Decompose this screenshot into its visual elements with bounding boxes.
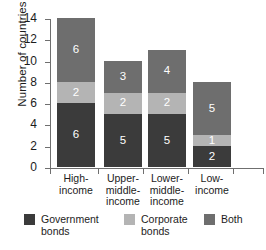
y-tick-label-4: 4 — [30, 118, 37, 131]
bar-segment-value: 5 — [209, 103, 215, 115]
bar-segment[interactable]: 2 — [193, 146, 231, 167]
y-tick-label-10: 10 — [24, 55, 37, 68]
y-tick-label-8: 8 — [30, 76, 37, 89]
y-tick-label-2: 2 — [30, 140, 37, 153]
bar-segment[interactable]: 4 — [148, 50, 186, 93]
chart-legend: Government bondsCorporate bondsBoth — [24, 213, 262, 243]
bar-1[interactable]: 626 — [57, 18, 95, 167]
y-tick-8: 8 — [45, 83, 50, 84]
y-tick-label-12: 12 — [24, 33, 37, 46]
bar-segment-value: 3 — [120, 71, 126, 83]
bar-segment[interactable]: 2 — [104, 93, 142, 114]
category-label-4: Low- income — [182, 173, 242, 196]
bar-segment[interactable]: 5 — [193, 82, 231, 135]
bar-segment[interactable]: 6 — [57, 18, 95, 82]
bar-segment[interactable]: 6 — [57, 103, 95, 167]
x-axis-line — [50, 168, 264, 169]
legend-item[interactable]: Corporate bonds — [124, 213, 188, 237]
legend-swatch-icon — [24, 214, 35, 225]
legend-item[interactable]: Government bonds — [24, 213, 99, 237]
y-axis-line — [50, 19, 51, 169]
bar-segment-value: 5 — [120, 135, 126, 147]
bar-segment-value: 5 — [164, 135, 170, 147]
y-tick-4: 4 — [45, 125, 50, 126]
legend-item[interactable]: Both — [204, 213, 243, 225]
bar-segment[interactable]: 5 — [148, 114, 186, 167]
bar-segment-value: 2 — [164, 97, 170, 109]
bar-segment[interactable]: 2 — [57, 82, 95, 103]
bar-2[interactable]: 325 — [104, 61, 142, 167]
bar-segment[interactable]: 3 — [104, 61, 142, 93]
plot-area: 02468101214 626325425512 — [50, 19, 264, 168]
bar-segment-value: 2 — [120, 97, 126, 109]
bar-segment-value: 1 — [209, 135, 215, 147]
bar-segment[interactable]: 5 — [104, 114, 142, 167]
legend-label: Corporate bonds — [141, 213, 188, 237]
y-tick-10: 10 — [45, 62, 50, 63]
bar-segment-value: 6 — [73, 44, 79, 56]
legend-swatch-icon — [204, 214, 215, 225]
y-tick-2: 2 — [45, 147, 50, 148]
bar-4[interactable]: 512 — [193, 82, 231, 167]
bar-segment-value: 2 — [209, 151, 215, 163]
bar-segment[interactable]: 2 — [148, 93, 186, 114]
y-tick-12: 12 — [45, 40, 50, 41]
legend-swatch-icon — [124, 214, 135, 225]
y-tick-label-14: 14 — [24, 12, 37, 25]
x-tick-5 — [263, 169, 264, 174]
bar-segment[interactable]: 1 — [193, 135, 231, 146]
bar-segment-value: 6 — [73, 129, 79, 141]
bar-segment-value: 4 — [164, 65, 170, 77]
bar-3[interactable]: 425 — [148, 50, 186, 167]
stacked-bar-chart: Number of countries 02468101214 62632542… — [0, 0, 266, 250]
legend-label: Government bonds — [41, 213, 99, 237]
legend-label: Both — [221, 213, 243, 225]
y-tick-label-6: 6 — [30, 97, 37, 110]
bar-segment-value: 2 — [73, 87, 79, 99]
y-tick-6: 6 — [45, 104, 50, 105]
y-tick-14: 14 — [45, 19, 50, 20]
y-tick-label-0: 0 — [30, 161, 37, 174]
